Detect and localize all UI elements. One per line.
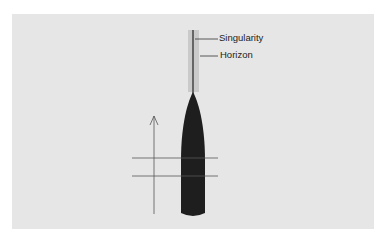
black-hole-diagram <box>0 0 383 237</box>
collapsing-star-shape <box>181 92 205 216</box>
horizon-label: Horizon <box>220 49 253 60</box>
singularity-label: Singularity <box>219 32 263 43</box>
